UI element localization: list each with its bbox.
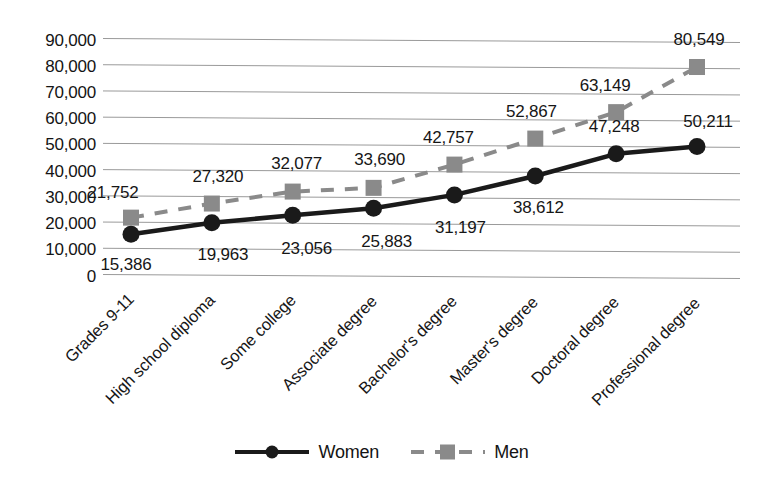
data-label-men-5: 52,867	[506, 102, 557, 119]
marker-women-7	[689, 138, 706, 155]
data-label-men-2: 32,077	[271, 154, 322, 171]
data-label-men-4: 42,757	[423, 128, 474, 145]
marker-men-0	[123, 210, 139, 226]
chart-legend: Women Men	[0, 437, 762, 467]
legend-label-women: Women	[318, 442, 379, 463]
marker-women-3	[365, 200, 382, 217]
gridline-60000	[103, 117, 740, 121]
data-label-women-1: 19,963	[197, 245, 248, 262]
legend-label-men: Men	[494, 442, 528, 463]
marker-men-1	[204, 196, 220, 212]
legend-solid-line-circle-icon	[233, 443, 311, 461]
data-label-women-6: 47,248	[589, 117, 640, 134]
data-label-women-2: 23,056	[281, 240, 332, 257]
data-label-women-7: 50,211	[683, 112, 733, 129]
gridlines	[103, 39, 740, 279]
data-label-men-7: 80,549	[674, 31, 725, 48]
gridline-80000	[103, 65, 740, 69]
marker-women-5	[527, 167, 544, 184]
marker-women-1	[203, 214, 220, 231]
data-label-women-5: 38,612	[513, 198, 564, 215]
data-label-men-1: 27,320	[192, 167, 243, 184]
legend-dashed-line-square-icon	[409, 443, 487, 461]
gridline-0	[103, 275, 740, 279]
legend-item-men[interactable]: Men	[409, 442, 528, 463]
data-label-men-6: 63,149	[580, 77, 631, 94]
marker-women-2	[284, 207, 301, 224]
marker-men-7	[689, 59, 705, 75]
marker-men-2	[285, 184, 301, 200]
marker-women-0	[123, 226, 140, 243]
data-label-women-4: 31,197	[435, 218, 486, 235]
marker-men-5	[527, 131, 543, 147]
marker-women-4	[446, 186, 463, 203]
data-label-women-0: 15,386	[101, 256, 152, 273]
data-label-women-3: 25,883	[361, 233, 412, 250]
line-chart: 90,00080,00070,00060,00050,00040,00030,0…	[0, 0, 762, 487]
gridline-90000	[103, 39, 740, 43]
legend-item-women[interactable]: Women	[233, 442, 379, 463]
marker-men-3	[366, 180, 382, 196]
gridline-50000	[103, 143, 740, 147]
data-label-men-0: 21,752	[88, 183, 139, 200]
series-women	[123, 138, 706, 243]
data-label-men-3: 33,690	[354, 150, 405, 167]
marker-men-4	[446, 157, 462, 173]
marker-women-6	[608, 145, 625, 162]
